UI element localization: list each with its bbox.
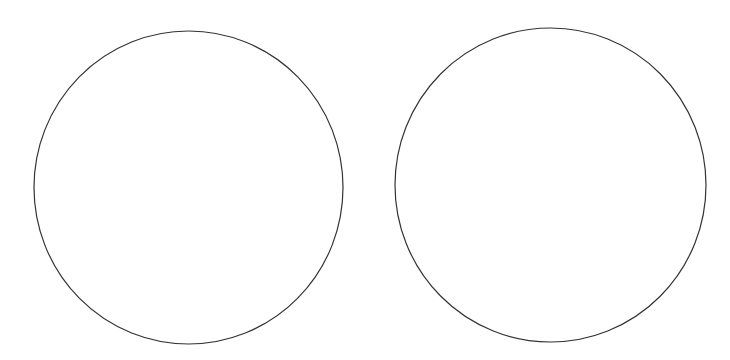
diagram-canvas	[0, 0, 730, 360]
right-circle	[395, 28, 706, 342]
left-circle	[34, 31, 343, 344]
